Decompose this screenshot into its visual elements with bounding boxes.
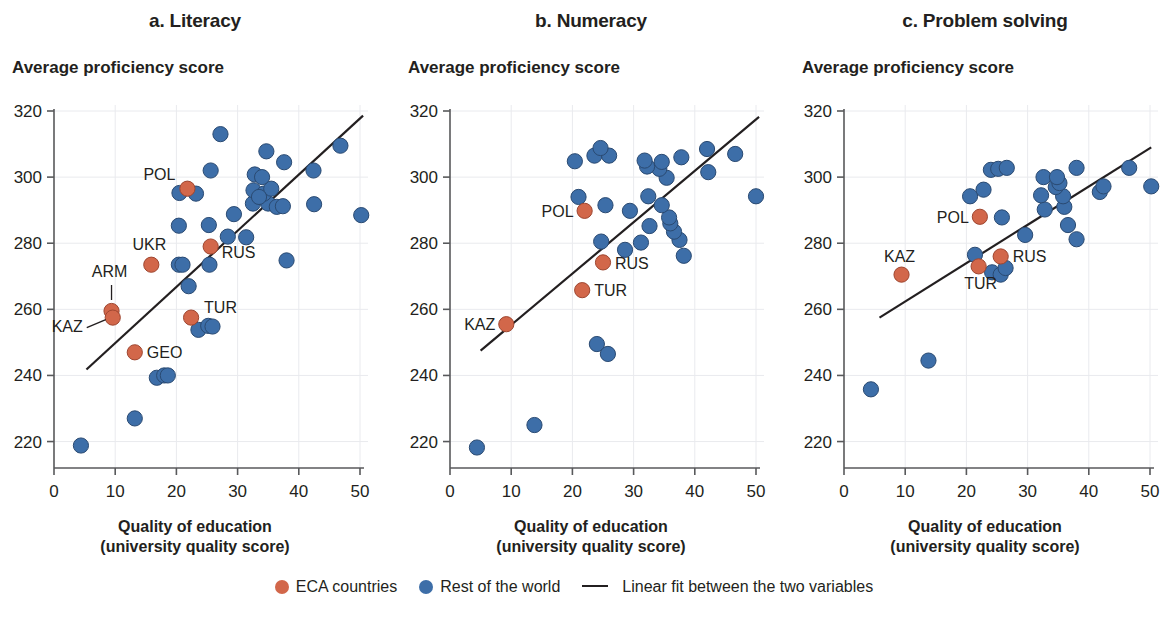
data-point bbox=[962, 189, 977, 204]
chart-panel-1: a. LiteracyAverage proficiency scoreQual… bbox=[0, 0, 390, 575]
x-axis-title-line-1: Quality of education bbox=[908, 518, 1062, 535]
plot-area: 22024026028030032001020304050KAZTURRUSPO… bbox=[396, 0, 786, 500]
x-tick-label: 0 bbox=[839, 482, 848, 500]
point-label-rus: RUS bbox=[615, 255, 649, 272]
point-labels: KAZTURRUSPOL bbox=[464, 203, 649, 333]
x-tick-label: 10 bbox=[896, 482, 915, 500]
data-point bbox=[641, 189, 656, 204]
data-point-eca bbox=[144, 257, 159, 272]
x-tick-label: 0 bbox=[49, 482, 58, 500]
y-tick-label: 320 bbox=[14, 102, 42, 121]
linear-fit-line-icon bbox=[582, 585, 608, 587]
data-point bbox=[205, 319, 220, 334]
point-label-ukr: UKR bbox=[132, 236, 166, 253]
x-tick-label: 20 bbox=[957, 482, 976, 500]
y-tick-label: 220 bbox=[14, 433, 42, 452]
data-point bbox=[999, 160, 1014, 175]
legend-item-linear-fit: Linear fit between the two variables bbox=[582, 578, 873, 596]
y-tick-label: 300 bbox=[804, 168, 832, 187]
data-point bbox=[279, 253, 294, 268]
data-point bbox=[1018, 227, 1033, 242]
x-tick-label: 40 bbox=[1079, 482, 1098, 500]
data-point bbox=[527, 417, 542, 432]
data-point-eca bbox=[127, 345, 142, 360]
point-labels: KAZTURRUSPOL bbox=[884, 209, 1046, 293]
data-point bbox=[976, 182, 991, 197]
legend-label-eca: ECA countries bbox=[296, 578, 397, 596]
x-tick-labels: 01020304050 bbox=[49, 482, 369, 500]
data-point bbox=[213, 127, 228, 142]
data-point bbox=[277, 155, 292, 170]
y-tick-label: 220 bbox=[410, 433, 438, 452]
data-point bbox=[637, 153, 652, 168]
data-point bbox=[254, 170, 269, 185]
x-tick-labels: 01020304050 bbox=[839, 482, 1159, 500]
x-tick-label: 30 bbox=[228, 482, 247, 500]
data-point bbox=[160, 368, 175, 383]
data-point bbox=[598, 198, 613, 213]
legend-item-rest-of-world: Rest of the world bbox=[419, 578, 560, 596]
x-tick-label: 20 bbox=[563, 482, 582, 500]
data-point bbox=[469, 440, 484, 455]
data-point bbox=[1122, 160, 1137, 175]
x-tick-label: 40 bbox=[289, 482, 308, 500]
data-point bbox=[921, 353, 936, 368]
data-point bbox=[1060, 217, 1075, 232]
data-point bbox=[201, 217, 216, 232]
point-label-geo: GEO bbox=[147, 344, 183, 361]
series-eca-countries bbox=[499, 203, 611, 332]
data-point bbox=[567, 154, 582, 169]
data-point bbox=[701, 165, 716, 180]
y-tick-labels: 220240260280300320 bbox=[14, 102, 42, 452]
data-point bbox=[175, 257, 190, 272]
chart-panel-2: b. NumeracyAverage proficiency scoreQual… bbox=[396, 0, 786, 575]
y-tick-label: 280 bbox=[14, 234, 42, 253]
x-axis-title: Quality of education(university quality … bbox=[396, 517, 786, 558]
point-label-kaz: KAZ bbox=[464, 316, 495, 333]
data-point-eca bbox=[180, 181, 195, 196]
x-tick-label: 50 bbox=[747, 482, 766, 500]
data-point-eca bbox=[575, 283, 590, 298]
data-point bbox=[633, 235, 648, 250]
data-point-eca bbox=[972, 209, 987, 224]
x-tick-label: 40 bbox=[685, 482, 704, 500]
data-point bbox=[748, 189, 763, 204]
x-tick-label: 50 bbox=[351, 482, 370, 500]
data-point bbox=[259, 144, 274, 159]
chart-panel-3: c. Problem solvingAverage proficiency sc… bbox=[790, 0, 1170, 575]
data-point-eca bbox=[993, 249, 1008, 264]
point-label-tur: TUR bbox=[594, 282, 627, 299]
data-point bbox=[181, 279, 196, 294]
data-point-eca bbox=[105, 310, 120, 325]
data-point bbox=[594, 234, 609, 249]
point-label-kaz: KAZ bbox=[884, 248, 915, 265]
data-point bbox=[354, 208, 369, 223]
label-leader-line bbox=[87, 320, 106, 328]
y-tick-label: 320 bbox=[804, 102, 832, 121]
data-point-eca bbox=[894, 267, 909, 282]
data-point-eca bbox=[499, 317, 514, 332]
y-tick-labels: 220240260280300320 bbox=[804, 102, 832, 452]
x-axis-title-line-2: (university quality score) bbox=[790, 537, 1170, 557]
legend-label-rest-of-world: Rest of the world bbox=[440, 578, 560, 596]
data-point bbox=[1033, 188, 1048, 203]
linear-fit-line bbox=[481, 117, 759, 351]
point-label-kaz: KAZ bbox=[52, 318, 83, 335]
y-tick-label: 240 bbox=[14, 366, 42, 385]
plot-area: 22024026028030032001020304050KAZTURRUSPO… bbox=[790, 0, 1170, 500]
y-tick-label: 280 bbox=[804, 234, 832, 253]
x-axis-title-line-1: Quality of education bbox=[118, 518, 272, 535]
x-tick-labels: 01020304050 bbox=[445, 482, 765, 500]
data-point bbox=[73, 438, 88, 453]
data-point bbox=[202, 257, 217, 272]
data-point-eca bbox=[577, 203, 592, 218]
data-point bbox=[600, 346, 615, 361]
x-axis-title: Quality of education(university quality … bbox=[0, 517, 390, 558]
y-tick-label: 260 bbox=[804, 300, 832, 319]
data-point bbox=[994, 210, 1009, 225]
data-point bbox=[307, 197, 322, 212]
y-tick-label: 260 bbox=[14, 300, 42, 319]
figure-legend: ECA countries Rest of the world Linear f… bbox=[0, 578, 1170, 596]
x-tick-label: 50 bbox=[1141, 482, 1160, 500]
y-tick-label: 220 bbox=[804, 433, 832, 452]
